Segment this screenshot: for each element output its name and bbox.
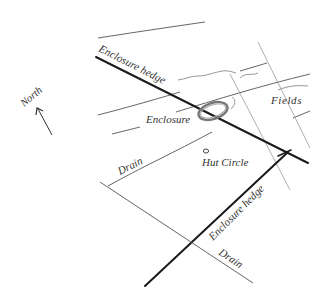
label-hut-circle: Hut Circle — [201, 156, 248, 168]
field-boundary-connector — [231, 97, 235, 109]
label-fields: Fields — [270, 94, 302, 106]
field-boundary-wavy-2 — [240, 73, 258, 78]
field-line-vertical-1 — [230, 74, 290, 190]
field-boundary-short-2 — [293, 111, 310, 118]
field-boundary-left-2 — [112, 127, 140, 134]
drain-lower — [100, 182, 253, 283]
site-diagram: North Enclosure hedge Enclosure Fields D… — [0, 0, 324, 303]
drain-upper — [108, 132, 212, 186]
field-boundary-wavy-3 — [278, 86, 308, 90]
label-enclosure-hedge-bottom: Enclosure hedge — [205, 182, 266, 243]
north-arrow-icon — [36, 108, 52, 135]
enclosure-hedge-top — [96, 57, 308, 163]
field-boundary-short-1 — [240, 63, 267, 71]
label-enclosure: Enclosure — [145, 113, 190, 125]
label-enclosure-hedge-top: Enclosure hedge — [96, 42, 168, 86]
label-drain-upper: Drain — [115, 154, 145, 177]
field-boundary-top — [98, 22, 205, 38]
enclosure-oval — [196, 99, 229, 123]
enclosure-hedge-bottom — [145, 153, 287, 286]
field-boundary-left-1 — [98, 92, 180, 115]
field-boundary-wavy-1 — [178, 71, 236, 80]
hut-circle-icon — [203, 149, 208, 153]
label-drain-lower: Drain — [216, 245, 246, 270]
north-label: North — [17, 84, 44, 109]
